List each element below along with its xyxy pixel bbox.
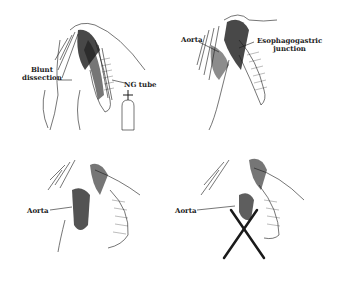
label-ng-tube: NG tube: [124, 81, 156, 89]
aorta-exposure-illustration: [0, 140, 169, 281]
label-aorta: Aorta: [181, 36, 203, 44]
panel-top-left: Blunt dissection NG tube: [0, 0, 169, 140]
panel-bottom-left: Aorta: [0, 140, 169, 280]
label-aorta: Aorta: [175, 207, 197, 215]
label-blunt-dissection: Blunt dissection: [22, 66, 62, 82]
label-esophagogastric-junction: Esophagogastric junction: [257, 37, 322, 53]
panel-bottom-right: Aorta: [169, 140, 338, 280]
label-line: junction: [257, 45, 322, 53]
label-aorta: Aorta: [27, 207, 49, 215]
esophagogastric-junction-illustration: [169, 0, 338, 140]
label-line: dissection: [22, 74, 62, 82]
panel-top-right: Aorta Esophagogastric junction: [169, 0, 338, 140]
